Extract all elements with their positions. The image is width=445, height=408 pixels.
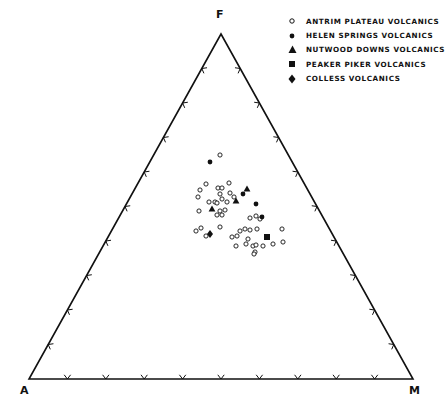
vertex-label-m: M — [409, 384, 420, 397]
left-edge-tick — [67, 309, 72, 315]
nutwood-downs-point — [209, 205, 216, 211]
legend-label: ANTRIM PLATEAU VOLCANICS — [306, 17, 439, 26]
legend-item-helen-springs: HELEN SPRINGS VOLCANICS — [283, 28, 445, 42]
antrim-point — [248, 228, 252, 232]
left-edge-tick — [144, 171, 149, 177]
antrim-point — [218, 225, 222, 229]
antrim-point — [225, 200, 229, 204]
legend-label: NUTWOOD DOWNS VOLCANICS — [306, 45, 445, 54]
vertex-label-a: A — [20, 384, 29, 397]
data-points — [194, 153, 285, 256]
peaker-piker-point — [264, 234, 270, 240]
tick-marks — [48, 68, 394, 379]
right-edge-tick — [389, 344, 394, 350]
nutwood-downs-point — [244, 185, 251, 191]
helen-springs-point — [254, 202, 259, 207]
helen-springs-point — [260, 215, 265, 220]
antrim-point — [271, 242, 275, 246]
right-edge-tick — [254, 102, 259, 108]
antrim-point — [220, 197, 224, 201]
antrim-point — [199, 226, 203, 230]
antrim-point — [230, 235, 234, 239]
legend-label: PEAKER PIKER VOLCANICS — [306, 60, 426, 69]
antrim-point — [234, 244, 238, 248]
antrim-point — [243, 227, 247, 231]
antrim-point — [252, 252, 256, 256]
antrim-point — [254, 214, 258, 218]
antrim-point — [254, 243, 258, 247]
antrim-point — [223, 208, 227, 212]
antrim-point — [244, 242, 248, 246]
legend-label: HELEN SPRINGS VOLCANICS — [306, 31, 433, 40]
left-edge-tick — [48, 344, 53, 350]
antrim-point — [281, 240, 285, 244]
antrim-point — [198, 188, 202, 192]
right-edge-tick — [235, 68, 240, 74]
legend-item-colless: COLLESS VOLCANICS — [283, 72, 445, 86]
antrim-point — [238, 229, 242, 233]
antrim-point — [196, 195, 200, 199]
antrim-point — [220, 213, 224, 217]
antrim-point — [207, 200, 211, 204]
left-edge-tick — [106, 240, 111, 246]
filled-circle-icon — [283, 32, 301, 40]
antrim-point — [235, 234, 239, 238]
legend-label: COLLESS VOLCANICS — [306, 74, 400, 83]
legend-item-nutwood-downs: NUTWOOD DOWNS VOLCANICS — [283, 43, 445, 57]
legend: ANTRIM PLATEAU VOLCANICS HELEN SPRINGS V… — [283, 14, 445, 86]
right-edge-tick — [369, 309, 374, 315]
open-circle-icon — [283, 17, 301, 25]
filled-triangle-icon — [283, 45, 301, 54]
antrim-point — [204, 182, 208, 186]
antrim-point — [227, 181, 231, 185]
antrim-point — [194, 229, 198, 233]
left-edge-tick — [125, 206, 130, 212]
right-edge-tick — [350, 275, 355, 281]
antrim-point — [197, 209, 201, 213]
left-edge-tick — [183, 102, 188, 108]
antrim-point — [248, 216, 252, 220]
antrim-point — [218, 209, 222, 213]
antrim-point — [280, 227, 284, 231]
left-edge-tick — [202, 68, 207, 74]
helen-springs-point — [241, 192, 246, 197]
right-edge-tick — [331, 240, 336, 246]
filled-diamond-icon — [283, 74, 301, 84]
antrim-point — [215, 213, 219, 217]
helen-springs-point — [208, 160, 213, 165]
antrim-point — [218, 153, 222, 157]
vertex-label-f: F — [216, 8, 224, 21]
antrim-point — [220, 186, 224, 190]
right-edge-tick — [312, 206, 317, 212]
antrim-point — [218, 192, 222, 196]
legend-item-antrim: ANTRIM PLATEAU VOLCANICS — [283, 14, 445, 28]
right-edge-tick — [293, 171, 298, 177]
left-edge-tick — [163, 137, 168, 143]
antrim-point — [261, 244, 265, 248]
legend-item-peaker-piker: PEAKER PIKER VOLCANICS — [283, 57, 445, 71]
right-edge-tick — [273, 137, 278, 143]
antrim-point — [228, 191, 232, 195]
filled-square-icon — [283, 60, 301, 68]
antrim-point — [246, 237, 250, 241]
antrim-point — [255, 227, 259, 231]
left-edge-tick — [87, 275, 92, 281]
antrim-point — [215, 201, 219, 205]
